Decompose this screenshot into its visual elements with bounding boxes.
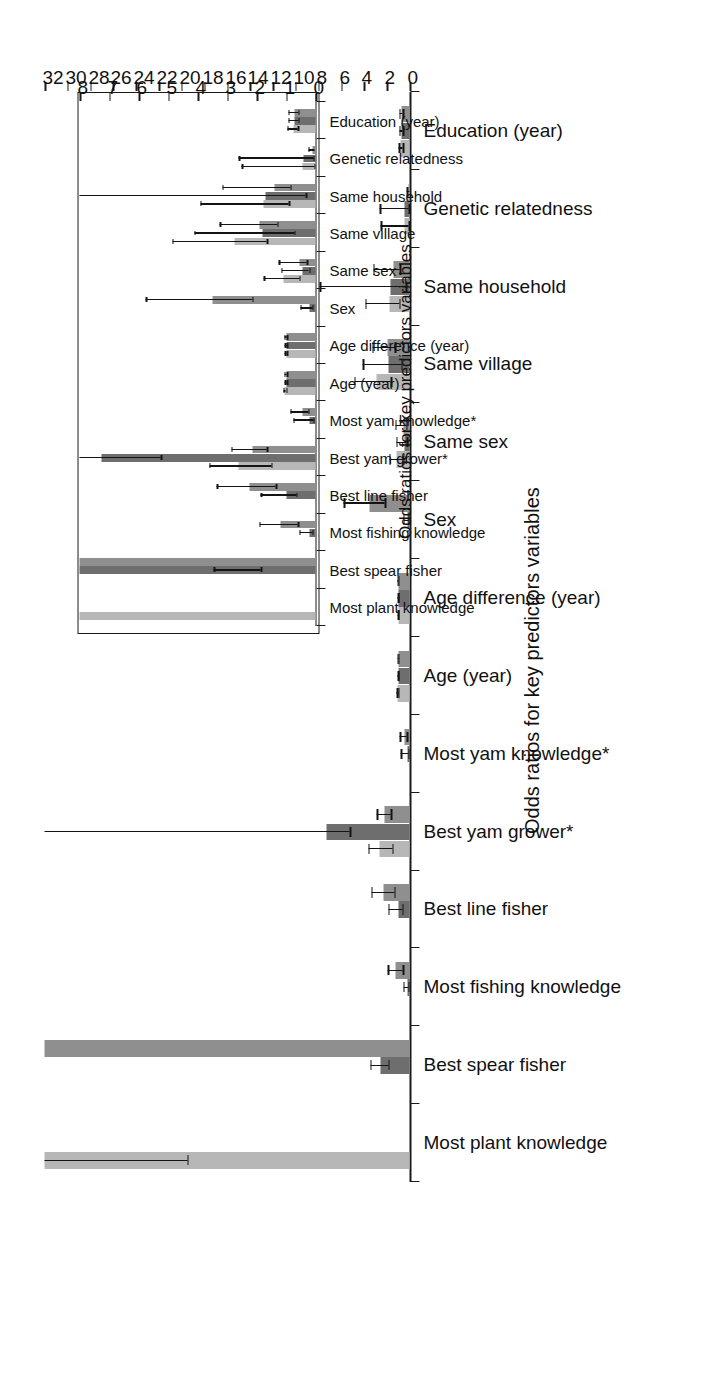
figure-canvas: 02468101214161820222426283032 Most plant… [0, 0, 705, 1394]
error-bar-cap [298, 118, 299, 123]
category-label: Age (year) [329, 374, 399, 391]
error-bar-cap [299, 276, 300, 281]
category-label: Best yam grower* [329, 449, 447, 466]
category-separator [316, 101, 325, 102]
error-bar [172, 241, 266, 242]
error-bar-cap [145, 297, 146, 302]
category-separator [316, 326, 325, 327]
inset-plot-area [79, 102, 315, 626]
category-label: Best spear fisher [329, 561, 442, 578]
bar [286, 371, 316, 379]
error-bar-cap [284, 372, 285, 377]
error-bar-cap [299, 530, 300, 535]
error-bar [216, 486, 275, 487]
category-label: Most plant knowledge [329, 599, 474, 616]
error-bar-cap [172, 239, 173, 244]
error-bar-cap [297, 522, 298, 527]
category-separator [316, 138, 325, 139]
bar [284, 387, 315, 395]
error-bar [213, 569, 260, 570]
inset-chart-panel: 012345678 Most plant knowledgeBest spear… [0, 0, 705, 1394]
error-bar-cap [259, 522, 260, 527]
error-bar-cap [305, 193, 306, 198]
error-bar [79, 195, 305, 196]
error-bar-cap [252, 297, 253, 302]
error-bar-cap [275, 484, 276, 489]
bar [79, 558, 315, 566]
error-bar-cap [313, 418, 314, 423]
error-bar [293, 419, 313, 420]
category-separator [316, 625, 325, 626]
inset-axis-line [315, 94, 316, 626]
error-bar [278, 262, 306, 263]
category-label: Same household [329, 187, 442, 204]
error-bar-cap [312, 530, 313, 535]
error-bar-cap [286, 372, 287, 377]
category-separator [316, 400, 325, 401]
bar [286, 379, 316, 387]
error-bar-cap [263, 276, 264, 281]
inset-axis-title: Odds ratios for key predictors variables [395, 244, 415, 539]
error-bar-cap [314, 164, 315, 169]
error-bar-cap [308, 409, 309, 414]
error-bar [238, 157, 313, 158]
error-bar [241, 166, 313, 167]
error-bar-cap [286, 343, 287, 348]
error-bar-cap [286, 335, 287, 340]
error-bar-cap [260, 493, 261, 498]
error-bar-cap [241, 164, 242, 169]
error-bar-cap [213, 567, 214, 572]
error-bar-cap [288, 201, 289, 206]
error-bar [79, 457, 160, 458]
error-bar [194, 232, 294, 233]
error-bar-cap [278, 260, 279, 265]
error-bar [231, 449, 266, 450]
error-bar [299, 532, 312, 533]
category-separator [316, 513, 325, 514]
category-separator [316, 251, 325, 252]
error-bar-cap [309, 268, 310, 273]
error-bar-cap [287, 126, 288, 131]
error-bar-cap [266, 239, 267, 244]
error-bar-cap [222, 185, 223, 190]
error-bar-cap [194, 231, 195, 236]
error-bar-cap [277, 222, 278, 227]
error-bar-cap [297, 126, 298, 131]
error-bar-cap [313, 156, 314, 161]
error-bar-cap [284, 343, 285, 348]
category-label: Genetic relatedness [329, 150, 462, 167]
category-separator [316, 176, 325, 177]
error-bar [281, 270, 308, 271]
error-bar-cap [288, 118, 289, 123]
error-bar-cap [284, 351, 285, 356]
error-bar-cap [290, 185, 291, 190]
category-separator [316, 550, 325, 551]
error-bar-cap [231, 447, 232, 452]
error-bar [260, 494, 295, 495]
error-bar-cap [266, 447, 267, 452]
error-bar-cap [283, 388, 284, 393]
error-bar-cap [238, 156, 239, 161]
category-label: Sex [329, 299, 355, 316]
error-bar-cap [200, 201, 201, 206]
category-separator [316, 475, 325, 476]
bar [79, 566, 315, 574]
error-bar-cap [288, 110, 289, 115]
error-bar-cap [284, 335, 285, 340]
error-bar-cap [260, 567, 261, 572]
bar [286, 342, 316, 350]
category-separator [316, 288, 325, 289]
category-separator [316, 588, 325, 589]
error-bar [209, 465, 271, 466]
error-bar [145, 299, 251, 300]
error-bar-cap [271, 463, 272, 468]
bar [286, 350, 316, 358]
axis-tick-label: 8 [77, 77, 117, 99]
error-bar-cap [216, 484, 217, 489]
error-bar-cap [300, 305, 301, 310]
error-bar-cap [296, 493, 297, 498]
category-label: Education (year) [329, 112, 439, 129]
error-bar [259, 524, 297, 525]
bar [79, 612, 315, 620]
error-bar-cap [312, 305, 313, 310]
